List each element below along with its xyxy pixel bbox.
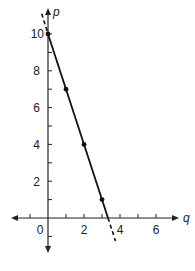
data-point: [64, 87, 69, 92]
y-tick-label-6: 6: [33, 101, 40, 115]
x-axis-left-arrow-icon: [11, 215, 18, 221]
y-tick-label-8: 8: [33, 64, 40, 78]
x-tick-label-4: 4: [117, 223, 124, 237]
x-tick-label-6: 6: [153, 223, 160, 237]
x-axis-label: q: [183, 211, 190, 225]
dashed-extension-bottom: [108, 218, 116, 241]
y-axis-down-arrow-icon: [45, 246, 51, 253]
y-tick-label-10: 10: [31, 27, 45, 41]
x-tick-label-2: 2: [81, 223, 88, 237]
y-tick-label-4: 4: [33, 138, 40, 152]
y-axis-up-arrow-icon: [45, 8, 51, 15]
y-axis-label: p: [52, 5, 60, 19]
data-point: [82, 142, 87, 147]
data-point: [100, 197, 105, 202]
x-tick-label-0: 0: [37, 223, 44, 237]
y-tick-label-2: 2: [33, 175, 40, 189]
data-point: [46, 32, 51, 37]
chart: 0 2 4 6 2 4 6 8 10 p q: [0, 0, 195, 271]
x-axis-right-arrow-icon: [172, 215, 179, 221]
demand-line: [48, 34, 108, 218]
